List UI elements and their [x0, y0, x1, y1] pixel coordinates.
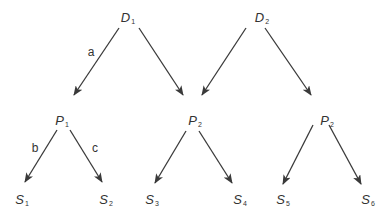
node-subscript: 2	[330, 121, 334, 128]
node-subscript: 5	[286, 200, 290, 207]
node-subscript: 1	[65, 121, 69, 128]
node-s6: S6	[361, 193, 375, 207]
node-symbol: S	[233, 192, 242, 207]
edge-d1-p1-arrow-icon	[74, 28, 119, 95]
node-d2: D2	[255, 11, 269, 25]
node-subscript: 2	[109, 200, 113, 207]
node-subscript: 2	[265, 18, 269, 25]
node-symbol: S	[99, 192, 108, 207]
node-symbol: S	[15, 192, 24, 207]
edges-layer	[0, 0, 390, 218]
node-symbol: P	[320, 113, 329, 128]
node-subscript: 6	[371, 200, 375, 207]
edge-d2-p2a-arrow-icon	[202, 28, 246, 95]
edge-p1-s2-arrow-icon	[70, 130, 102, 182]
node-p2b: P2	[320, 114, 334, 128]
node-s5: S5	[276, 193, 290, 207]
node-symbol: P	[55, 113, 64, 128]
node-symbol: D	[121, 10, 130, 25]
node-s2: S2	[99, 193, 113, 207]
edge-p2b-s6-arrow-icon	[329, 125, 361, 184]
node-subscript: 3	[155, 200, 159, 207]
edge-p2a-s4-arrow-icon	[199, 131, 232, 183]
node-symbol: S	[276, 192, 285, 207]
node-s1: S1	[15, 193, 29, 207]
decision-tree-diagram: abcD1D2P1P2P2S1S2S3S4S5S6	[0, 0, 390, 218]
edge-label-a: a	[88, 46, 95, 58]
node-p2a: P2	[188, 114, 202, 128]
node-subscript: 2	[198, 121, 202, 128]
node-symbol: D	[255, 10, 264, 25]
edge-p2a-s3-arrow-icon	[155, 131, 186, 183]
node-p1: P1	[55, 114, 69, 128]
edge-p2b-s5-arrow-icon	[283, 125, 313, 184]
node-s3: S3	[145, 193, 159, 207]
node-symbol: P	[188, 113, 197, 128]
edge-label-c: c	[92, 142, 98, 154]
node-subscript: 1	[25, 200, 29, 207]
node-symbol: S	[361, 192, 370, 207]
edge-d2-p2b-arrow-icon	[265, 28, 311, 95]
edge-p1-s1-arrow-icon	[25, 130, 57, 182]
node-s4: S4	[233, 193, 247, 207]
node-subscript: 4	[243, 200, 247, 207]
edge-d1-p2a-arrow-icon	[139, 28, 183, 95]
node-d1: D1	[121, 11, 135, 25]
node-symbol: S	[145, 192, 154, 207]
edge-label-b: b	[32, 142, 39, 154]
node-subscript: 1	[131, 18, 135, 25]
